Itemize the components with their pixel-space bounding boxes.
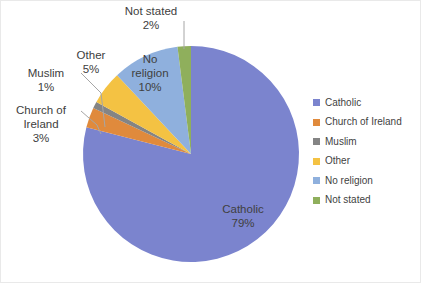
label-not-stated-line: Not stated	[125, 5, 177, 17]
legend-item-catholic[interactable]: Catholic	[313, 93, 417, 113]
legend-item-label: Muslim	[325, 137, 357, 147]
legend-item-muslim[interactable]: Muslim	[313, 132, 417, 152]
label-other-line: Other	[77, 49, 106, 61]
label-no-religion-line: 10%	[138, 81, 161, 93]
legend-swatch-icon	[313, 158, 320, 165]
label-church-of-ireland-line: Ireland	[23, 118, 58, 130]
pie-slices-group	[83, 46, 299, 262]
label-church-of-ireland-line: Church of	[16, 104, 67, 116]
legend-swatch-icon	[313, 138, 320, 145]
label-muslim-line: Muslim	[28, 67, 64, 79]
label-not-stated: Not stated2%	[125, 5, 177, 31]
label-muslim: Muslim1%	[28, 67, 64, 93]
label-church-of-ireland: Church ofIreland3%	[16, 104, 67, 144]
legend-item-label: Catholic	[325, 98, 361, 108]
label-not-stated-line: 2%	[143, 19, 160, 31]
label-muslim-line: 1%	[38, 81, 55, 93]
label-no-religion-line: No	[143, 53, 158, 65]
legend-item-other[interactable]: Other	[313, 152, 417, 172]
legend-item-label: Church of Ireland	[325, 117, 402, 127]
legend-item-label: No religion	[325, 176, 373, 186]
label-other-line: 5%	[83, 63, 100, 75]
legend-item-label: Other	[325, 156, 350, 166]
label-other: Other5%	[77, 49, 106, 75]
legend-swatch-icon	[313, 177, 320, 184]
chart-legend: CatholicChurch of IrelandMuslimOtherNo r…	[313, 93, 417, 210]
label-no-religion-line: religion	[131, 67, 168, 79]
legend-item-church-of-ireland[interactable]: Church of Ireland	[313, 113, 417, 133]
pie-chart-figure: Not stated2%Other5%Muslim1%Church ofIrel…	[0, 0, 421, 283]
label-catholic-line: Catholic	[222, 203, 264, 215]
label-catholic-line: 79%	[231, 217, 254, 229]
legend-swatch-icon	[313, 99, 320, 106]
legend-item-label: Not stated	[325, 195, 371, 205]
legend-swatch-icon	[313, 197, 320, 204]
legend-item-not-stated[interactable]: Not stated	[313, 191, 417, 211]
legend-item-no-religion[interactable]: No religion	[313, 171, 417, 191]
legend-swatch-icon	[313, 119, 320, 126]
label-church-of-ireland-line: 3%	[33, 132, 50, 144]
